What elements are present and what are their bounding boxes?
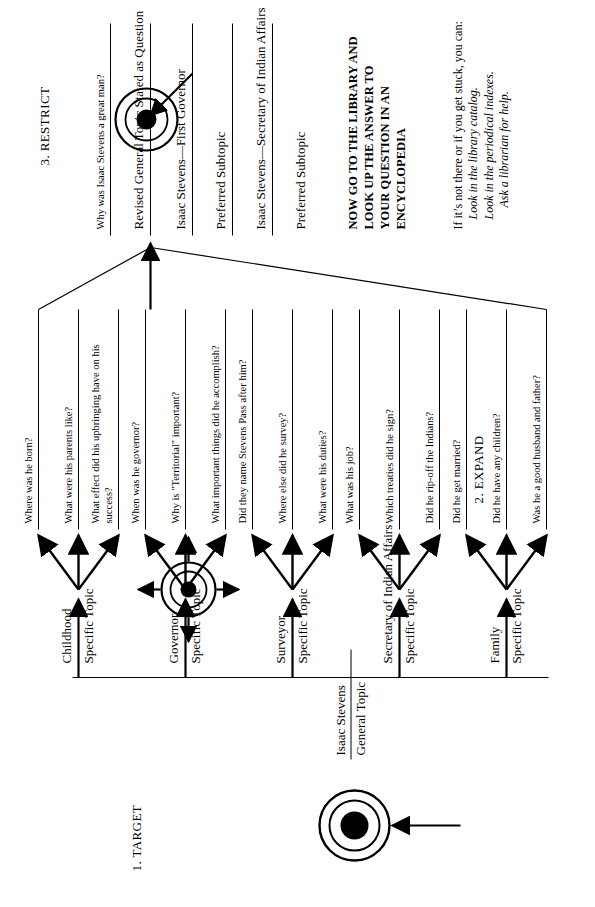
question-secretary-3: Did he rip-off the Indians? [423, 411, 434, 523]
restrict-fallback-item-1: Look in the library catalog. [465, 0, 480, 219]
bullseye-icon [316, 787, 396, 863]
restrict-chosen-question: Why was Isaac Stevens a great man? [94, 74, 105, 229]
branch-subtitle-surveyor: Specific Topic [294, 588, 310, 663]
question-secretary-1: What was his job? [343, 446, 354, 523]
question-childhood-2: What were his parents like? [62, 406, 73, 523]
question-surveyor-1: Did they name Stevens Pass after him? [236, 359, 247, 523]
question-family-3: Was he a good husband and father? [530, 375, 541, 523]
restrict-instruction: NOW GO TO THE LIBRARY AND LOOK UP THE AN… [344, 0, 408, 229]
stage-header-target: 1. TARGET [128, 804, 144, 871]
restrict-chosen-question-caption: Revised General Topic Stated as Question [130, 10, 146, 229]
restrict-preferred-subtopic: Isaac Stevens—Secretary of Indian Affair… [252, 7, 268, 229]
question-family-1: Did he get married? [450, 439, 461, 523]
fan-secretary [359, 535, 439, 589]
branch-subtitle-governor: Specific Topic [187, 588, 203, 663]
question-governor-1: When was he governor? [129, 421, 140, 523]
branch-subtitle-secretary: Specific Topic [401, 588, 417, 663]
branch-topic-governor: Governor [165, 613, 181, 663]
restrict-preferred-subtopic-caption: Preferred Subtopic [292, 131, 308, 229]
question-secretary-2: Which treaties did he sign? [383, 409, 394, 523]
restrict-fallback: If it’s not there or if you get stuck, y… [450, 0, 511, 229]
stage-header-restrict: 3. RESTRICT [36, 86, 52, 165]
diagram-canvas: 1. TARGET 2. EXPAND 3. RESTRICT Isaac St… [0, 0, 595, 907]
diagram-page: 1. TARGET 2. EXPAND 3. RESTRICT Isaac St… [0, 0, 595, 907]
branch-subtitle-family: Specific Topic [508, 588, 524, 663]
question-surveyor-2: Where else did he survey? [276, 412, 287, 523]
branch-subtitle-childhood: Specific Topic [80, 588, 96, 663]
target-rule [350, 649, 351, 759]
question-childhood-1: Where was he born? [22, 437, 33, 523]
stage-header-expand: 2. EXPAND [470, 435, 486, 503]
restrict-instruction-line-1: NOW GO TO THE LIBRARY AND [344, 0, 360, 229]
question-governor-2: Why is "Territorial" important? [169, 391, 180, 523]
fan-family [466, 535, 546, 589]
target-name-label: Isaac Stevens [332, 685, 348, 755]
restrict-instruction-line-4: ENCYCLOPEDIA [392, 0, 408, 229]
restrict-preferred-topic: Isaac Stevens—First Governor [172, 69, 188, 229]
fan-childhood [38, 535, 118, 589]
restrict-fallback-item-2: Look in the periodical indexes. [481, 0, 496, 219]
restrict-preferred-topic-caption: Preferred Subtopic [212, 131, 228, 229]
branch-topic-surveyor: Surveyor [272, 615, 288, 663]
branch-topic-childhood: Childhood [58, 608, 74, 663]
restrict-fallback-intro: If it’s not there or if you get stuck, y… [450, 0, 465, 229]
target-role-label: General Topic [352, 681, 368, 755]
restrict-fallback-item-3: Ask a librarian for help. [496, 0, 511, 207]
question-surveyor-3: What were his duties? [316, 430, 327, 523]
question-governor-3: What important things did he accomplish? [209, 345, 220, 523]
question-family-2: Did he have any children? [490, 413, 501, 523]
branch-topic-family: Family [486, 626, 502, 663]
branch-topic-secretary: Secretary of Indian Affairs [379, 524, 395, 663]
restrict-gather [38, 243, 546, 309]
fan-surveyor [252, 535, 332, 589]
restrict-instruction-line-2: LOOK UP THE ANSWER TO [360, 0, 376, 229]
restrict-instruction-line-3: YOUR QUESTION IN AN [376, 0, 392, 229]
question-childhood-3: What effect did his upbringing have on h… [89, 311, 115, 523]
